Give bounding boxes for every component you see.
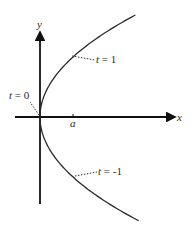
leader-tm1 — [75, 172, 97, 176]
annotation-tm1-rest: = -1 — [101, 165, 122, 177]
leader-t0 — [30, 102, 39, 115]
annotation-t1-rest: = 1 — [99, 53, 116, 65]
annotation-t0: t = 0 — [9, 89, 30, 101]
parabola-diagram: y x a t = 0 t = 1 t = -1 — [0, 0, 196, 229]
annotation-t0-rest: = 0 — [12, 89, 30, 101]
x-tick-label-a: a — [70, 117, 76, 129]
annotation-t1: t = 1 — [96, 53, 116, 65]
annotation-tm1: t = -1 — [98, 165, 122, 177]
x-axis-label: x — [176, 111, 182, 123]
leader-t1 — [72, 56, 95, 60]
y-axis-label: y — [36, 18, 42, 30]
